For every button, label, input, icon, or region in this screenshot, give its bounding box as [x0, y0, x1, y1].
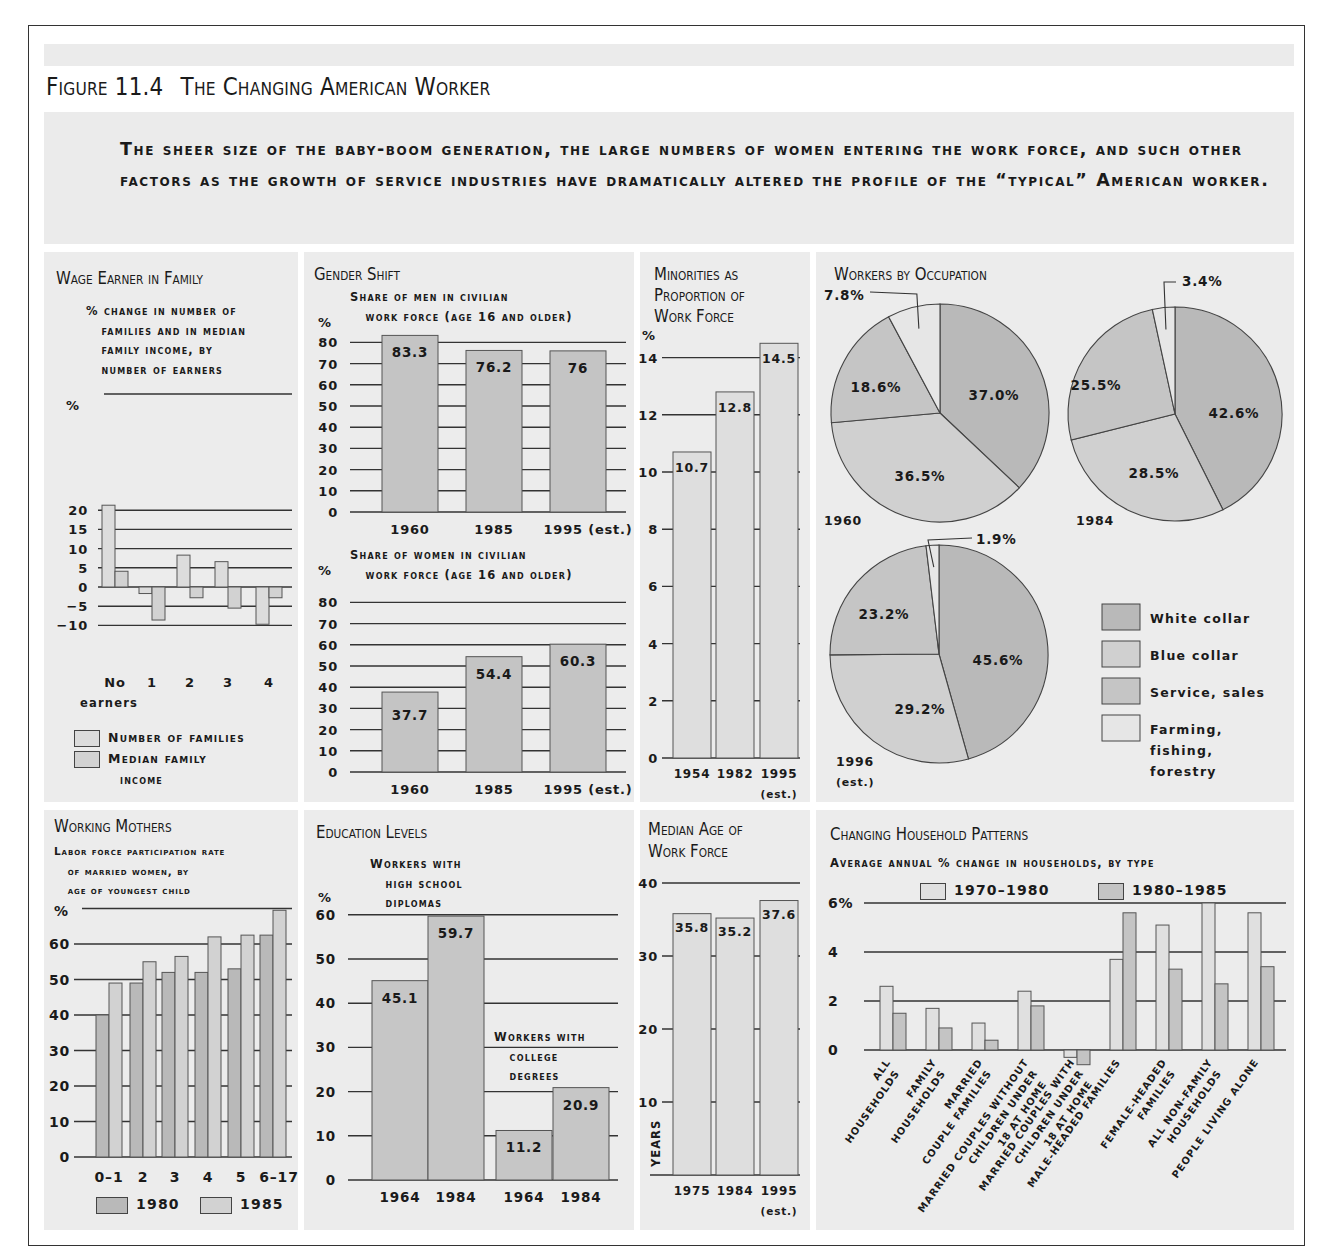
- bar-value-label: 14.5: [762, 351, 796, 366]
- bar-value-label: 37.7: [392, 707, 429, 723]
- y-tick-label: 60: [318, 638, 338, 653]
- bar-1980–1985: [1031, 1006, 1044, 1050]
- bar-1980: [228, 969, 241, 1157]
- x-tick-label: 1985: [474, 522, 513, 537]
- x-tick-label: 2: [185, 675, 195, 690]
- bar-value-label: 35.2: [718, 924, 752, 939]
- bar-value-label: 76.2: [476, 359, 513, 375]
- x-tick-label: 1: [147, 675, 157, 690]
- legend-label: 1980: [136, 1196, 180, 1212]
- bar-value-label: 35.8: [675, 920, 709, 935]
- bar: [760, 343, 798, 758]
- y-tick-label: 30: [316, 1039, 336, 1055]
- y-tick-label: 30: [318, 701, 338, 716]
- panel-minorities: Minorities as Proportion of Work Force %…: [640, 252, 810, 802]
- pie-slice-service-sales: [830, 546, 939, 655]
- x-tick-label: 1982: [717, 767, 754, 781]
- bar-income: [228, 587, 241, 608]
- x-tick-label: 1984: [717, 1184, 754, 1198]
- pie-year-label: 1996: [836, 754, 874, 769]
- bar-value-label: 54.4: [476, 666, 513, 682]
- y-tick-label: −5: [66, 599, 88, 614]
- bar-1985: [241, 935, 254, 1157]
- y-tick-label: 2: [648, 694, 658, 709]
- bar-families: [215, 562, 228, 587]
- legend-item-1985: 1985: [200, 1196, 284, 1214]
- bar-value-label: 45.1: [382, 990, 419, 1006]
- y-tick-label: 10: [638, 1095, 658, 1110]
- legend-swatch: [200, 1197, 232, 1214]
- pie-callout-label: 3.4%: [1182, 273, 1223, 289]
- figure-title: Figure 11.4The Changing American Worker: [46, 72, 490, 101]
- bar-1980: [96, 1015, 109, 1157]
- y-tick-label: 2: [828, 993, 839, 1009]
- legend-label: Blue collar: [1150, 648, 1239, 663]
- bar-1985: [143, 962, 156, 1157]
- working-mothers-chart: %60504030201000–123456–17: [44, 810, 298, 1230]
- pie-slice-label: 45.6%: [973, 652, 1024, 668]
- occupation-pies: 37.0%36.5%18.6%7.8%196042.6%28.5%25.5%3.…: [816, 252, 1294, 802]
- x-tick-label: 6–17: [259, 1169, 298, 1185]
- bar-value-label: 11.2: [506, 1139, 543, 1155]
- bar-value-label: 59.7: [438, 925, 475, 941]
- legend-swatch: [1102, 641, 1140, 667]
- panel-median-age: Median Age of Work Force 40302010YEARS35…: [640, 810, 810, 1230]
- legend-swatch: [74, 751, 100, 768]
- bar-value-label: 83.3: [392, 344, 429, 360]
- x-tick-label: 1964: [504, 1189, 545, 1205]
- y-tick-label: 12: [638, 408, 658, 423]
- legend-swatch: [1102, 715, 1140, 741]
- x-tick-label: 3: [170, 1169, 181, 1185]
- panel-gender-shift: Gender Shift Share of men in civilian wo…: [304, 252, 634, 802]
- bar: [673, 452, 711, 758]
- x-axis-note: (est.): [761, 1205, 798, 1217]
- panel-wage-earner: Wage Earner in Family % change in number…: [44, 252, 298, 802]
- x-tick-label: 1995 (est.): [543, 522, 632, 537]
- x-tick-label: 4: [203, 1169, 214, 1185]
- bar: [716, 392, 754, 758]
- y-tick-label: 40: [49, 1007, 70, 1023]
- y-tick-label: 60: [316, 907, 336, 923]
- y-tick-label: 0: [648, 751, 658, 766]
- bar-1970–1980: [972, 1023, 985, 1050]
- bar: [382, 335, 438, 512]
- bar-1970–1980: [1156, 925, 1169, 1050]
- bar-value-label: 20.9: [563, 1097, 600, 1113]
- y-tick-label: 4: [648, 637, 658, 652]
- bar-income: [190, 587, 203, 598]
- legend-label: Number of families: [108, 730, 245, 745]
- legend-item-income: Median family: [74, 751, 207, 768]
- y-tick-label: 0: [328, 765, 338, 780]
- y-tick-label: 8: [648, 522, 658, 537]
- y-tick-label: 0: [78, 580, 88, 595]
- y-tick-label: 0: [326, 1172, 336, 1188]
- legend-label: fishing,: [1150, 743, 1213, 758]
- intro-box: The sheer size of the baby-boom generati…: [44, 112, 1294, 244]
- legend-label: White collar: [1150, 611, 1251, 626]
- pie-slice-label: 36.5%: [895, 468, 946, 484]
- bar-1980–1985: [1123, 913, 1136, 1050]
- y-tick-label: 6%: [828, 895, 853, 911]
- y-tick-label: 40: [318, 420, 338, 435]
- bar-families: [139, 587, 152, 594]
- x-tick-label: 3: [223, 675, 233, 690]
- y-axis-unit: %: [54, 903, 69, 919]
- y-tick-label: 40: [316, 995, 336, 1011]
- bar-families: [177, 555, 190, 587]
- intro-text: The sheer size of the baby-boom generati…: [120, 134, 1270, 196]
- education-chart: %605040302010045.1196459.7198411.2196420…: [304, 810, 634, 1230]
- bar-1970–1980: [1064, 1050, 1077, 1057]
- pie-slice-label: 18.6%: [851, 379, 902, 395]
- bar: [372, 981, 428, 1180]
- pie-year-label: 1984: [1076, 513, 1114, 528]
- y-tick-label: 15: [68, 522, 88, 537]
- bar-1970–1980: [1248, 913, 1261, 1050]
- x-tick-label: 1964: [380, 1189, 421, 1205]
- y-tick-label: 60: [49, 936, 70, 952]
- bar-1980–1985: [939, 1028, 952, 1050]
- y-tick-label: 10: [316, 1128, 336, 1144]
- x-tick-label: No: [104, 675, 125, 690]
- figure-number: Figure 11.4: [46, 72, 163, 101]
- y-axis-unit: %: [642, 328, 656, 343]
- x-tick-label: 1954: [674, 767, 711, 781]
